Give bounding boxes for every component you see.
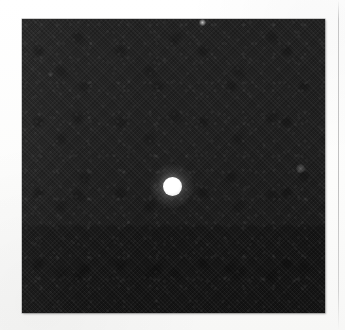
margin-rule-line (338, 0, 339, 330)
figure-page (0, 0, 345, 330)
dark-field-image (22, 19, 325, 313)
halftone-speckle-layer (22, 19, 325, 313)
